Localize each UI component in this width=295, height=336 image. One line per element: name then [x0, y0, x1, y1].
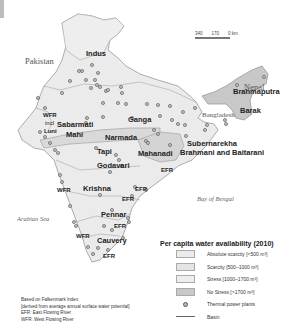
basin-label-wfr-incl-luni-3: Luni — [44, 128, 57, 134]
note-wfr: WFR: West Flowing River — [21, 317, 130, 324]
country-label-bangladesh: Bangladesh — [202, 112, 235, 119]
scale-label-170: 170 — [212, 31, 220, 36]
legend-label: Thermal power plants — [207, 301, 255, 307]
basin-label-krishna: Krishna — [83, 185, 111, 193]
legend-label: Basin — [207, 314, 220, 320]
scale-bar: 340 170 0 km — [195, 31, 238, 39]
basin-label-efr-2: EFR — [135, 186, 147, 192]
note-efr: EFR: East Flowing River — [21, 310, 130, 317]
legend-swatch-stress — [176, 275, 195, 283]
legend-swatch-scarcity — [176, 263, 195, 271]
legend-item-absolute-scarcity: Absolute scarcity [<500 m³] — [168, 249, 295, 260]
scale-label-340: 340 — [195, 31, 203, 36]
scale-bar-line — [195, 37, 230, 39]
legend-item-scarcity: Scarcity [500–1000 m³] — [168, 262, 295, 273]
basin-line-icon — [176, 316, 195, 317]
basin-label-indus: Indus — [86, 50, 106, 58]
basin-label-narmada: Narmada — [105, 134, 137, 142]
basin-label-mahi: Mahi — [66, 131, 83, 139]
basin-label-wfr-incl-luni-1: WFR — [43, 112, 57, 118]
basin-label-mahanadi: Mahanadi — [138, 150, 173, 158]
legend-item-stress: Stress [1000–1700 m³] — [168, 274, 295, 285]
legend-label: Scarcity [500–1000 m³] — [207, 264, 258, 270]
basin-label-cauvery: Cauvery — [97, 237, 127, 245]
basin-label-wfr-incl-luni-2: incl — [45, 120, 54, 126]
basin-label-sabarmati: Sabarmati — [57, 121, 93, 129]
legend-swatch-no-stress — [176, 288, 195, 296]
map-notes: Based on Falkenmark Index [derived from … — [21, 297, 130, 323]
basin-label-efr-3: EFR — [122, 196, 134, 202]
legend-item-thermal-power-plants: Thermal power plants — [168, 299, 295, 310]
basin-label-pennar: Pennar — [101, 211, 126, 219]
legend-item-basin: Basin — [168, 312, 295, 323]
legend-label: Stress [1000–1700 m³] — [207, 276, 258, 282]
legend-title: Per capita water availability (2010) — [160, 240, 295, 247]
basin-label-subernarekha: Subernarekha — [187, 140, 237, 148]
basin-label-barak: Barak — [240, 107, 261, 115]
basin-label-brahmaputra: Brahmaputra — [233, 88, 280, 96]
basin-label-efr-5: EFR — [103, 253, 115, 259]
note-derivation: [derived from average annual surface wat… — [21, 304, 130, 311]
basin-label-efr-4: EFR — [114, 223, 126, 229]
scale-label-0km: 0 km — [228, 31, 238, 36]
country-label-pakistan: Pakistan — [25, 57, 54, 66]
legend-item-no-stress: No Stress [>1700 m³] — [168, 287, 295, 298]
basin-label-godavari: Godavari — [97, 162, 130, 170]
basin-label-tapi: Tapi — [97, 148, 112, 156]
map-legend: Per capita water availability (2010) Abs… — [168, 240, 295, 322]
note-falkenmark: Based on Falkenmark Index — [21, 297, 130, 304]
legend-label: Absolute scarcity [<500 m³] — [207, 251, 267, 257]
basin-label-brahmani-baitarani: Brahmani and Baitarani — [180, 149, 264, 157]
sea-label-arabian-sea: Arabian Sea — [17, 216, 49, 223]
basin-label-wfr-1: WFR — [57, 187, 71, 193]
basin-label-ganga: Ganga — [128, 116, 151, 124]
basin-label-wfr-2: WFR — [76, 233, 90, 239]
basin-label-efr-1: EFR — [161, 167, 173, 173]
legend-label: No Stress [>1700 m³] — [207, 289, 254, 295]
legend-swatch-absolute-scarcity — [176, 250, 195, 258]
power-plant-dot-icon — [176, 302, 195, 307]
sea-label-bay-of-bengal: Bay of Bengal — [197, 196, 234, 203]
